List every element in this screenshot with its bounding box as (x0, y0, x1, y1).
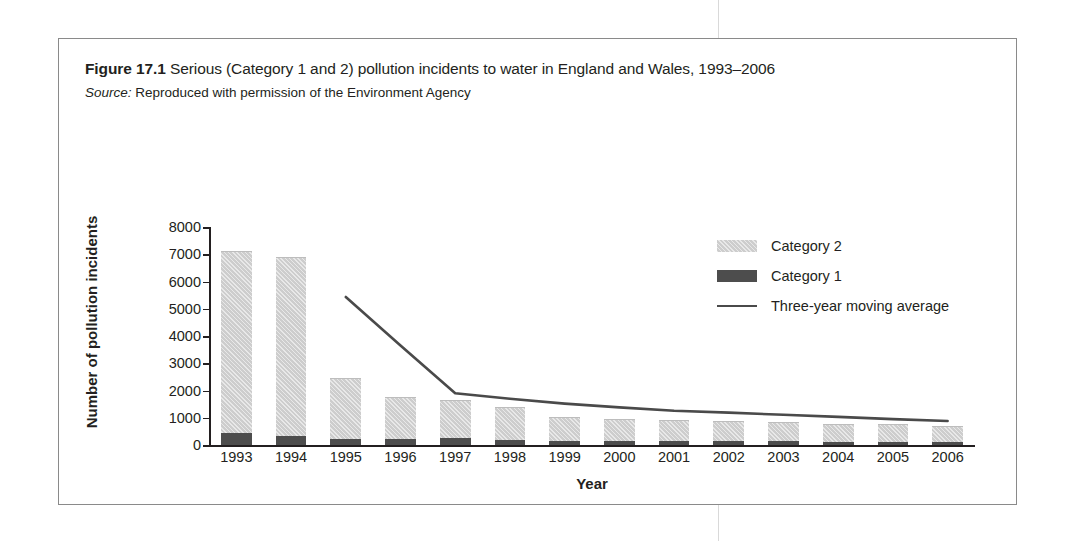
source-text: Reproduced with permission of the Enviro… (135, 85, 470, 100)
y-tick-label: 0 (193, 437, 201, 453)
legend-swatch-icon (717, 270, 757, 282)
legend-swatch-icon (717, 240, 757, 252)
legend-item-label: Category 2 (771, 238, 842, 254)
x-tick-label: 1995 (330, 449, 362, 465)
legend-item[interactable]: Three-year moving average (717, 291, 1007, 321)
caption-text: Serious (Category 1 and 2) pollution inc… (170, 60, 775, 77)
y-tick-label: 4000 (169, 328, 201, 344)
legend-swatch-icon (717, 300, 757, 312)
source-label: Source: (85, 85, 132, 100)
y-tick-label: 5000 (169, 301, 201, 317)
x-axis-title: Year (209, 475, 975, 492)
figure-frame: Figure 17.1 Serious (Category 1 and 2) p… (58, 38, 1017, 505)
y-tick-mark (203, 282, 209, 284)
x-tick-label: 2004 (822, 449, 854, 465)
chart-legend: Category 2Category 1Three-year moving av… (717, 231, 1007, 321)
y-tick-label: 6000 (169, 274, 201, 290)
source-line: Source: Reproduced with permission of th… (85, 84, 990, 102)
figure-caption: Figure 17.1 Serious (Category 1 and 2) p… (85, 56, 990, 102)
x-tick-label: 1993 (220, 449, 252, 465)
y-tick-label: 7000 (169, 246, 201, 262)
legend-item[interactable]: Category 1 (717, 261, 1007, 291)
y-tick-mark (203, 227, 209, 229)
y-tick-mark (203, 336, 209, 338)
legend-item-label: Category 1 (771, 268, 842, 284)
chart-plot-region: Number of pollution incidents 0100020003… (95, 179, 1000, 489)
y-tick-mark (203, 445, 209, 447)
y-tick-mark (203, 254, 209, 256)
y-tick-mark (203, 309, 209, 311)
caption-line: Figure 17.1 Serious (Category 1 and 2) p… (85, 56, 990, 81)
x-axis-line (209, 445, 975, 447)
y-tick-mark (203, 363, 209, 365)
x-tick-label: 1998 (494, 449, 526, 465)
x-tick-label: 2005 (877, 449, 909, 465)
legend-item[interactable]: Category 2 (717, 231, 1007, 261)
figure-label: Figure 17.1 (85, 60, 166, 77)
y-tick-label: 3000 (169, 355, 201, 371)
x-axis-tick-labels: 1993199419951996199719981999200020012002… (209, 449, 975, 471)
x-tick-label: 2001 (658, 449, 690, 465)
y-tick-label: 8000 (169, 219, 201, 235)
y-tick-mark (203, 418, 209, 420)
y-tick-mark (203, 391, 209, 393)
x-tick-label: 1996 (384, 449, 416, 465)
x-tick-label: 2000 (603, 449, 635, 465)
y-axis-tick-labels: 010002000300040005000600070008000 (141, 227, 201, 445)
y-tick-label: 2000 (169, 383, 201, 399)
x-tick-label: 1999 (549, 449, 581, 465)
x-tick-label: 1997 (439, 449, 471, 465)
y-tick-label: 1000 (169, 410, 201, 426)
x-tick-label: 1994 (275, 449, 307, 465)
x-tick-label: 2006 (932, 449, 964, 465)
x-tick-label: 2002 (713, 449, 745, 465)
x-tick-label: 2003 (767, 449, 799, 465)
y-axis-title: Number of pollution incidents (83, 207, 105, 437)
legend-item-label: Three-year moving average (771, 298, 949, 314)
